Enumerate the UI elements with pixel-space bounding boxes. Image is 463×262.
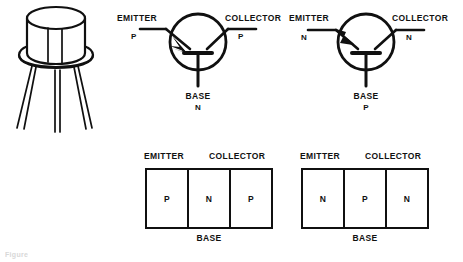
- npn-base-type: P: [343, 104, 389, 112]
- npn-layer-box: N P N: [301, 168, 429, 229]
- pnp-layer-base-type: N: [206, 194, 212, 204]
- pnp-layer-base: N: [189, 170, 231, 227]
- pnp-layer-emitter: P: [147, 170, 189, 227]
- npn-emitter-type: N: [301, 34, 307, 42]
- npn-block-collector-label: COLLECTOR: [365, 152, 421, 161]
- pnp-block-base-label: BASE: [145, 234, 273, 243]
- transistor-figure: EMITTER P COLLECTOR P BASE N EMITTER N C…: [0, 0, 463, 262]
- npn-layer-emitter: N: [303, 170, 345, 227]
- npn-block-base-label: BASE: [301, 234, 429, 243]
- caption-fragment: Figure: [5, 251, 28, 260]
- pnp-block-emitter-label: EMITTER: [144, 152, 184, 161]
- npn-layer-collector-type: N: [404, 194, 410, 204]
- npn-base-label: BASE: [343, 92, 389, 101]
- npn-layer-collector: N: [387, 170, 427, 227]
- npn-collector-label: COLLECTOR: [392, 14, 448, 23]
- pnp-layer-collector-type: P: [248, 194, 254, 204]
- pnp-block-collector-label: COLLECTOR: [209, 152, 265, 161]
- npn-layer-base: P: [345, 170, 387, 227]
- npn-layer-base-type: P: [362, 194, 368, 204]
- npn-emitter-label: EMITTER: [289, 14, 329, 23]
- pnp-layer-box: P N P: [145, 168, 273, 229]
- npn-block-emitter-label: EMITTER: [300, 152, 340, 161]
- pnp-layer-emitter-type: P: [164, 194, 170, 204]
- pnp-layer-collector: P: [231, 170, 271, 227]
- npn-layer-emitter-type: N: [320, 194, 326, 204]
- npn-collector-type: N: [406, 34, 412, 42]
